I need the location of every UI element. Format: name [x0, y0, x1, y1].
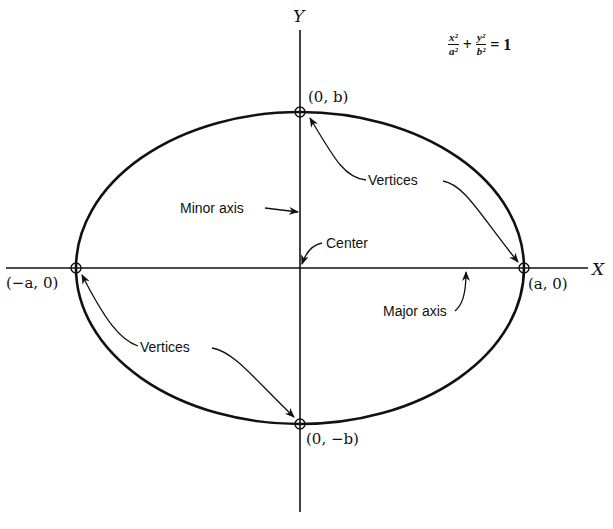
fraction-y: y² b² [476, 32, 486, 57]
fraction-y-denominator: b² [477, 45, 486, 57]
ellipse-equation: x² a² + y² b² = 1 [448, 32, 511, 57]
arrow-vertices-to-left [82, 275, 138, 346]
y-axis-label: Y [293, 8, 304, 25]
arrow-vertices-to-right [443, 181, 518, 262]
arrow-center [302, 243, 322, 264]
point-label-right: (a, 0) [528, 277, 568, 292]
fraction-x-numerator: x² [448, 32, 459, 45]
point-label-top: (0, b) [308, 90, 348, 105]
plus-operator: + [463, 37, 472, 53]
annotation-major-axis: Major axis [383, 304, 447, 318]
arrow-major-axis [455, 272, 466, 311]
fraction-x: x² a² [448, 32, 459, 57]
annotation-vertices-lower: Vertices [140, 340, 190, 354]
annotation-center: Center [326, 236, 368, 250]
point-label-bottom: (0, −b) [306, 432, 359, 447]
equals-one: = 1 [490, 37, 511, 53]
arrow-vertices-to-top [310, 118, 366, 180]
annotation-vertices-upper: Vertices [368, 173, 418, 187]
fraction-x-denominator: a² [449, 45, 458, 57]
ellipse-diagram: Y X x² a² + y² b² = 1 (0, b) (0, −b) (−a… [0, 0, 613, 529]
annotation-minor-axis: Minor axis [180, 201, 244, 215]
point-label-left: (−a, 0) [6, 276, 58, 291]
x-axis-label: X [592, 261, 604, 278]
arrow-minor-axis [265, 208, 298, 212]
ellipse-figure [0, 0, 613, 529]
arrow-vertices-to-bottom [212, 348, 294, 417]
fraction-y-numerator: y² [476, 32, 486, 45]
